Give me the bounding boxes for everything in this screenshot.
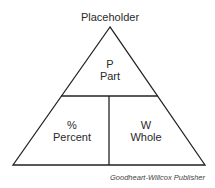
triangle-diagram xyxy=(0,0,215,188)
section-top: P Part xyxy=(80,58,140,82)
part-symbol: P xyxy=(80,58,140,70)
percent-label: Percent xyxy=(42,131,102,143)
part-label: Part xyxy=(80,70,140,82)
whole-symbol: W xyxy=(116,119,176,131)
publisher-credit: Goodheart-Willcox Publisher xyxy=(110,173,205,182)
section-bottom-right: W Whole xyxy=(116,119,176,143)
section-bottom-left: % Percent xyxy=(42,119,102,143)
percent-symbol: % xyxy=(42,119,102,131)
whole-label: Whole xyxy=(116,131,176,143)
